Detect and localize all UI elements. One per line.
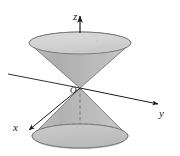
double-cone-figure: z y x O (0, 0, 180, 156)
lower-cone-base-ellipse (32, 124, 128, 148)
disc-speckle-b (112, 48, 113, 49)
figure-canvas: z y x O (0, 0, 180, 156)
disc-speckle-a (96, 40, 97, 41)
z-axis-label: z (72, 10, 78, 22)
origin-label: O (70, 85, 77, 95)
upper-cone-top-ellipse (29, 32, 131, 54)
x-axis-label: x (12, 121, 18, 133)
y-axis-label: y (158, 107, 164, 119)
